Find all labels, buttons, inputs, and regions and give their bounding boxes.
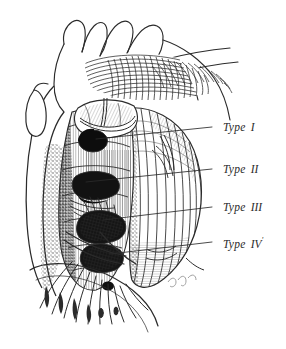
label-type-4-prime: ' <box>262 236 264 245</box>
label-type-2: TypeII <box>223 164 258 176</box>
label-type-1-numeral: I <box>246 121 255 133</box>
label-type-2-numeral: II <box>246 163 259 175</box>
label-type-1: TypeI <box>223 122 255 134</box>
label-type-3-word: Type <box>223 201 246 213</box>
label-type-3: TypeIII <box>223 202 262 214</box>
label-type-4-numeral: IV <box>246 238 262 250</box>
defect-type-1 <box>79 130 108 152</box>
label-type-4: TypeIV' <box>223 237 264 250</box>
label-type-4-word: Type <box>223 238 246 250</box>
label-type-3-numeral: III <box>246 201 263 213</box>
defect-type-3 <box>77 211 126 244</box>
label-type-1-word: Type <box>223 121 246 133</box>
label-type-2-word: Type <box>223 163 246 175</box>
vsd-figure: TypeI TypeII TypeIII TypeIV' <box>0 0 286 349</box>
